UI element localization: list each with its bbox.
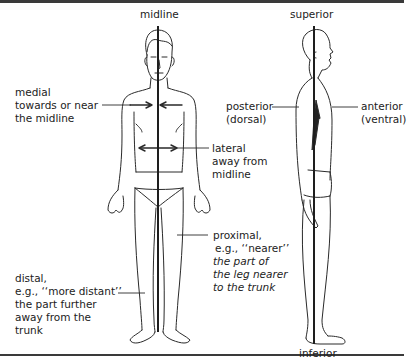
label-distal: distal, e.g., ‘‘more distant’’ the part … — [15, 272, 122, 337]
medial-arrows — [130, 102, 182, 108]
proximal-desc: the part of — [213, 255, 289, 268]
medial-term: medial — [15, 86, 98, 99]
posterior-term: posterior — [226, 100, 273, 113]
proximal-term: proximal, — [213, 229, 289, 242]
distal-term: distal, — [15, 272, 122, 285]
lateral-desc2: midline — [212, 168, 267, 181]
distal-desc2: away from the — [15, 311, 122, 324]
distal-desc: the part further — [15, 298, 122, 311]
side-figure — [296, 30, 345, 345]
label-posterior: posterior (dorsal) — [226, 100, 273, 126]
label-medial: medial towards or near the midline — [15, 86, 98, 125]
proximal-desc3: to the trunk — [213, 281, 289, 294]
medial-desc2: the midline — [15, 112, 98, 125]
label-lateral: lateral away from midline — [212, 142, 267, 181]
lateral-term: lateral — [212, 142, 267, 155]
proximal-eg: e.g., ‘‘nearer’’ — [215, 242, 289, 255]
distal-eg: e.g., ‘‘more distant’’ — [15, 285, 122, 298]
label-superior: superior — [290, 8, 333, 21]
distal-desc3: trunk — [15, 324, 122, 337]
label-midline: midline — [140, 8, 179, 21]
label-inferior: inferior — [299, 347, 337, 360]
axis-lines — [158, 26, 314, 344]
label-anterior: anterior (ventral) — [361, 100, 406, 126]
lateral-desc: away from — [212, 155, 267, 168]
posterior-alt: (dorsal) — [226, 113, 273, 126]
anterior-alt: (ventral) — [361, 113, 406, 126]
label-proximal: proximal, e.g., ‘‘nearer’’ the part of t… — [213, 229, 289, 294]
proximal-desc2: the leg nearer — [213, 268, 289, 281]
medial-desc: towards or near — [15, 99, 98, 112]
anterior-term: anterior — [361, 100, 406, 113]
